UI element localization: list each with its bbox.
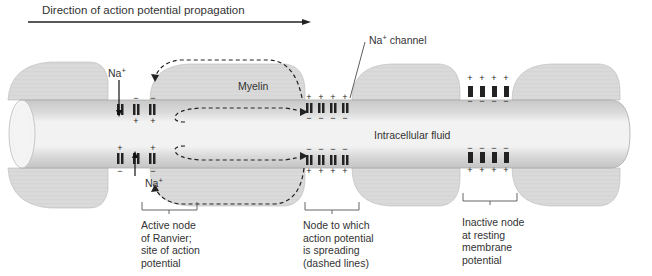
svg-text:+: + — [479, 165, 484, 175]
svg-text:−: − — [150, 93, 155, 103]
svg-text:−: − — [150, 166, 155, 176]
svg-text:−: − — [503, 96, 508, 106]
svg-text:+: + — [503, 165, 508, 175]
direction-arrow — [28, 19, 311, 25]
svg-text:−: − — [330, 144, 335, 154]
inactive-node-caption: Inactive node at resting membrane potent… — [462, 216, 524, 266]
svg-text:+: + — [491, 73, 496, 83]
svg-text:−: − — [306, 144, 311, 154]
na-ion-label-top: Na+ — [108, 67, 126, 80]
svg-text:+: + — [318, 92, 323, 102]
svg-text:+: + — [342, 92, 347, 102]
spreading-node-caption: Node to which action potential is spread… — [303, 219, 374, 269]
svg-text:−: − — [491, 143, 496, 153]
svg-text:+: + — [467, 73, 472, 83]
svg-text:−: − — [467, 143, 472, 153]
svg-text:+: + — [306, 166, 311, 176]
svg-text:+: + — [503, 73, 508, 83]
svg-text:+: + — [330, 166, 335, 176]
svg-text:−: − — [479, 96, 484, 106]
svg-text:−: − — [133, 93, 138, 103]
svg-text:−: − — [318, 113, 323, 123]
svg-text:−: − — [479, 143, 484, 153]
svg-text:−: − — [342, 113, 347, 123]
svg-text:+: + — [342, 166, 347, 176]
svg-text:+: + — [467, 165, 472, 175]
svg-text:+: + — [150, 116, 155, 126]
svg-text:−: − — [503, 143, 508, 153]
svg-text:−: − — [306, 113, 311, 123]
active-node-caption: Active node of Ranvier; site of action p… — [141, 219, 200, 269]
svg-text:+: + — [117, 143, 122, 153]
svg-text:+: + — [491, 165, 496, 175]
na-channel-label: Na+ channel — [369, 34, 427, 47]
svg-text:−: − — [330, 113, 335, 123]
svg-text:+: + — [306, 92, 311, 102]
svg-text:+: + — [330, 92, 335, 102]
svg-text:−: − — [342, 144, 347, 154]
svg-text:+: + — [150, 143, 155, 153]
svg-text:−: − — [467, 96, 472, 106]
myelin-label: Myelin — [238, 80, 268, 93]
svg-text:+: + — [133, 116, 138, 126]
svg-text:−: − — [117, 166, 122, 176]
intracellular-fluid-label: Intracellular fluid — [374, 129, 450, 142]
svg-text:+: + — [479, 73, 484, 83]
svg-text:−: − — [491, 96, 496, 106]
svg-text:−: − — [318, 144, 323, 154]
svg-text:+: + — [318, 166, 323, 176]
na-ion-label-bottom: Na+ — [145, 177, 163, 190]
